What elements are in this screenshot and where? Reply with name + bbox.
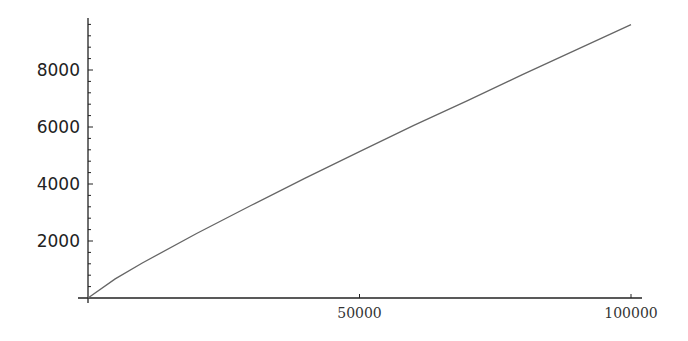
y-tick-label: 2000 [37, 231, 80, 251]
x-tick-label: 50000 [337, 305, 382, 321]
y-tick-label: 4000 [37, 174, 80, 194]
y-tick-label: 6000 [37, 117, 80, 137]
line-chart: 2000400060008000 50000100000 [0, 0, 688, 341]
x-tick-label: 100000 [604, 305, 657, 321]
data-line [88, 25, 631, 298]
y-tick-label: 8000 [37, 60, 80, 80]
